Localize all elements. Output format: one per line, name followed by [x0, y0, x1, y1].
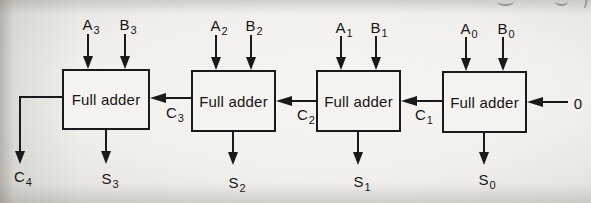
arrowhead-down-icon [15, 151, 25, 164]
label-s3-base: S [101, 170, 111, 187]
wire-c3 [166, 97, 191, 99]
label-c3-base: C [166, 104, 177, 121]
full-adder-label: Full adder [450, 94, 519, 111]
label-a0: A0 [460, 21, 477, 36]
label-s3-sub: 3 [112, 178, 118, 190]
circuit-diagram: A3 B3 Full adder S3 A2 B2 Full adder S2 … [0, 0, 591, 203]
wire-s3 [105, 130, 107, 152]
full-adder-box-3: Full adder [62, 69, 150, 130]
label-s2-base: S [228, 174, 238, 191]
arrowhead-down-icon [83, 56, 93, 69]
wire-a0 [465, 37, 467, 60]
arrowhead-left-icon [276, 96, 292, 106]
scan-artifact [584, 0, 588, 8]
label-c2-base: C [297, 106, 308, 123]
wire-c1 [417, 100, 442, 102]
arrowhead-down-icon [336, 57, 346, 70]
label-s1: S1 [353, 174, 370, 189]
label-c3-sub: 3 [178, 112, 184, 124]
label-c4-sub: 4 [26, 176, 32, 188]
full-adder-label: Full adder [199, 93, 268, 110]
label-b2: B2 [245, 18, 262, 33]
scan-artifact [555, 0, 568, 6]
arrowhead-left-icon [150, 93, 166, 103]
label-c1-base: C [415, 106, 426, 123]
arrowhead-down-icon [371, 57, 381, 70]
label-b2-sub: 2 [256, 25, 262, 37]
arrowhead-down-icon [101, 151, 111, 164]
label-c1-sub: 1 [427, 114, 433, 126]
wire-c2 [292, 100, 316, 102]
label-carry-in-value: 0 [574, 95, 582, 112]
arrowhead-down-icon [228, 152, 238, 165]
label-b1-base: B [370, 19, 380, 36]
label-b2-base: B [245, 17, 255, 34]
full-adder-box-0: Full adder [442, 71, 527, 133]
arrowhead-left-icon [527, 97, 543, 107]
full-adder-label: Full adder [324, 93, 393, 110]
label-s2: S2 [228, 175, 245, 190]
label-s0-sub: 0 [489, 179, 495, 191]
label-s3: S3 [101, 171, 118, 186]
wire-c4-vertical [19, 96, 21, 152]
label-b0: B0 [497, 21, 514, 36]
arrowhead-down-icon [353, 152, 363, 165]
label-a3: A3 [82, 17, 99, 32]
label-a3-base: A [82, 16, 92, 33]
arrowhead-down-icon [211, 57, 221, 70]
wire-b0 [502, 37, 504, 60]
arrowhead-down-icon [120, 56, 130, 69]
wire-a3 [87, 34, 89, 58]
label-c1: C1 [415, 107, 433, 122]
label-s0: S0 [478, 172, 495, 187]
wire-s2 [232, 132, 234, 153]
arrowhead-down-icon [498, 58, 508, 71]
label-a2-base: A [210, 17, 220, 34]
label-b0-sub: 0 [508, 28, 514, 40]
full-adder-box-1: Full adder [316, 70, 401, 132]
wire-a2 [215, 35, 217, 59]
label-b3-base: B [119, 16, 129, 33]
label-c4: C4 [14, 169, 32, 184]
wire-s0 [483, 133, 485, 153]
wire-b1 [375, 36, 377, 59]
wire-a1 [340, 36, 342, 59]
label-a2: A2 [210, 18, 227, 33]
label-b1: B1 [370, 20, 387, 35]
label-c2: C2 [297, 107, 315, 122]
scan-artifact [497, 0, 514, 6]
full-adder-label: Full adder [72, 91, 141, 108]
label-a1: A1 [335, 20, 352, 35]
label-c2-sub: 2 [309, 114, 315, 126]
label-b1-sub: 1 [381, 27, 387, 39]
label-s2-sub: 2 [239, 182, 245, 194]
label-c4-base: C [14, 168, 25, 185]
wire-c4-horizontal [19, 96, 62, 98]
wire-carry-in [543, 101, 568, 103]
label-a0-base: A [460, 20, 470, 37]
wire-b3 [124, 34, 126, 58]
arrowhead-left-icon [401, 96, 417, 106]
label-a1-sub: 1 [346, 27, 352, 39]
label-carry-in: 0 [574, 96, 582, 111]
label-c3: C3 [166, 105, 184, 120]
label-b3: B3 [119, 17, 136, 32]
arrowhead-down-icon [479, 152, 489, 165]
arrowhead-down-icon [246, 57, 256, 70]
label-b3-sub: 3 [130, 24, 136, 36]
label-s0-base: S [478, 171, 488, 188]
arrowhead-down-icon [461, 58, 471, 71]
label-b0-base: B [497, 20, 507, 37]
wire-b2 [250, 35, 252, 59]
label-a2-sub: 2 [221, 25, 227, 37]
label-a1-base: A [335, 19, 345, 36]
label-s1-sub: 1 [364, 181, 370, 193]
wire-s1 [357, 132, 359, 153]
label-a0-sub: 0 [471, 28, 477, 40]
full-adder-box-2: Full adder [191, 70, 276, 132]
label-a3-sub: 3 [93, 24, 99, 36]
label-s1-base: S [353, 173, 363, 190]
